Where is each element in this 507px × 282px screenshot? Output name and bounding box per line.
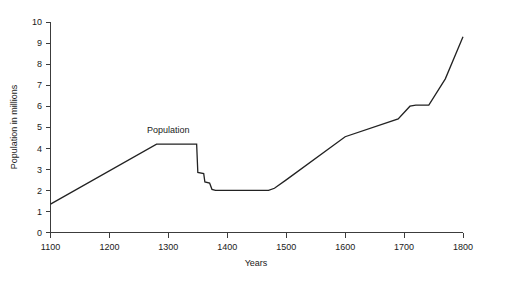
y-axis-group: 012345678910 Population in millions [9, 17, 51, 238]
y-axis-ticks: 012345678910 [32, 17, 51, 238]
y-tick-label: 4 [37, 144, 42, 154]
x-tick-label: 1800 [453, 242, 473, 252]
y-tick-label: 2 [37, 186, 42, 196]
y-tick-label: 7 [37, 80, 42, 90]
series-annotation-label: Population [147, 125, 190, 135]
population-line-chart: 012345678910 Population in millions 1100… [0, 0, 507, 282]
x-tick-label: 1400 [217, 242, 237, 252]
y-tick-label: 3 [37, 165, 42, 175]
x-tick-label: 1500 [276, 242, 296, 252]
y-tick-label: 5 [37, 122, 42, 132]
x-axis-group: 11001200130014001500160017001800 Years [41, 233, 473, 269]
x-tick-label: 1600 [335, 242, 355, 252]
chart-figure: 012345678910 Population in millions 1100… [0, 0, 507, 282]
chart-annotations: Population [147, 125, 190, 135]
x-tick-label: 1200 [99, 242, 119, 252]
x-tick-label: 1700 [394, 242, 414, 252]
x-axis-ticks: 11001200130014001500160017001800 [41, 233, 473, 253]
y-tick-label: 1 [37, 207, 42, 217]
x-tick-label: 1300 [158, 242, 178, 252]
y-tick-label: 8 [37, 59, 42, 69]
x-tick-label: 1100 [41, 242, 60, 252]
series-line-population [51, 37, 464, 204]
y-tick-label: 0 [37, 228, 42, 238]
data-series-group [51, 37, 464, 204]
x-axis-title: Years [245, 258, 268, 268]
y-tick-label: 6 [37, 101, 42, 111]
y-axis-title: Population in millions [9, 84, 19, 169]
y-tick-label: 10 [32, 17, 42, 27]
y-tick-label: 9 [37, 38, 42, 48]
